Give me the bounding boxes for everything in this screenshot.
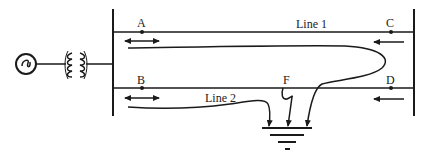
- ground-icon: [262, 128, 312, 149]
- generator-icon: [16, 54, 36, 74]
- current-path-line-1: [128, 46, 385, 126]
- label-c: C: [386, 16, 394, 30]
- point-c-dot: [389, 30, 393, 34]
- label-a: A: [137, 16, 146, 30]
- current-path-line-2: [128, 101, 270, 126]
- label-d: D: [386, 73, 395, 87]
- label-f: F: [283, 73, 290, 87]
- label-line-2: Line 2: [205, 91, 236, 105]
- point-a-dot: [140, 30, 144, 34]
- label-b: B: [137, 73, 145, 87]
- fault-lightning-icon: [282, 88, 292, 126]
- label-line-1: Line 1: [296, 17, 327, 31]
- fault-current-diagram: A C B D F Line 1 Line 2: [0, 0, 424, 161]
- transformer-icon: [65, 51, 87, 79]
